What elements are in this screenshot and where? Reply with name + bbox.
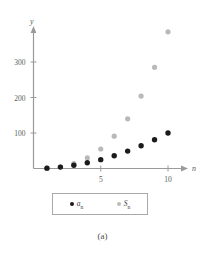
data-point — [85, 155, 90, 160]
data-point — [112, 153, 117, 158]
series-points-s-n — [44, 29, 170, 171]
legend-label-s-n: Sn — [124, 199, 131, 210]
figure-caption: (a) — [0, 231, 205, 241]
data-point — [152, 137, 157, 142]
legend-entry-a-n: an — [70, 199, 84, 210]
x-axis-label: n — [192, 164, 196, 173]
data-point — [112, 134, 117, 139]
data-point — [165, 29, 170, 34]
data-point — [165, 130, 170, 135]
legend-marker-s-n-icon — [117, 202, 121, 206]
series-points-a-n — [44, 130, 170, 171]
y-tick-label: 100 — [14, 129, 26, 138]
y-axis-label: y — [29, 17, 34, 26]
data-point — [44, 165, 49, 170]
data-point — [152, 65, 157, 70]
data-point — [58, 164, 63, 169]
x-tick-label: 5 — [99, 175, 103, 184]
legend-label-a-n: an — [77, 199, 84, 210]
y-tick-label: 300 — [14, 58, 26, 67]
y-axis-arrow-icon — [31, 26, 37, 33]
data-point — [85, 160, 90, 165]
x-tick-label: 10 — [164, 175, 172, 184]
scatter-plot-svg: 100200300 510 y n — [0, 0, 205, 190]
data-point — [98, 146, 103, 151]
data-point — [125, 148, 130, 153]
data-point — [138, 143, 143, 148]
data-point — [98, 157, 103, 162]
chart-plot-area: 100200300 510 y n — [0, 0, 205, 190]
figure-container: 100200300 510 y n an Sn (a) — [0, 0, 205, 258]
chart-legend: an Sn — [52, 193, 148, 215]
y-tick-label: 200 — [14, 94, 26, 103]
x-axis-arrow-icon — [181, 166, 188, 172]
legend-marker-a-n-icon — [70, 202, 74, 206]
data-point — [125, 116, 130, 121]
legend-entry-s-n: Sn — [117, 199, 131, 210]
data-point — [139, 93, 144, 98]
axes-group — [31, 26, 188, 171]
data-point — [71, 163, 76, 168]
